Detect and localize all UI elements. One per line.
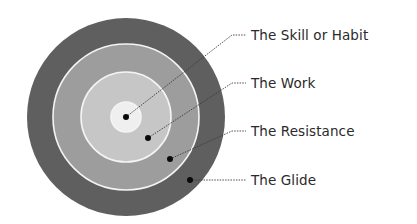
marker-dot bbox=[167, 156, 173, 162]
marker-dot bbox=[123, 114, 129, 120]
label-the-work: The Work bbox=[250, 75, 315, 91]
ring-diagram: The Skill or Habit The Work The Resistan… bbox=[0, 0, 417, 224]
label-skill-or-habit: The Skill or Habit bbox=[250, 27, 368, 43]
marker-dot bbox=[187, 177, 193, 183]
label-the-glide: The Glide bbox=[250, 172, 316, 188]
label-the-resistance: The Resistance bbox=[250, 123, 355, 139]
labels-group: The Skill or Habit The Work The Resistan… bbox=[250, 27, 368, 188]
marker-dot bbox=[145, 135, 151, 141]
